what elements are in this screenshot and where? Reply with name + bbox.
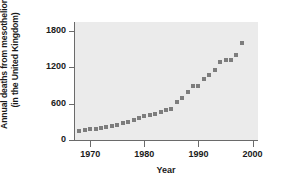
data-point	[137, 116, 141, 120]
data-point	[224, 58, 228, 62]
data-point	[180, 96, 184, 100]
data-point	[115, 123, 119, 127]
data-point	[234, 53, 238, 57]
x-tick-1990	[198, 141, 199, 147]
data-point	[148, 113, 152, 117]
chart-figure: Annual deaths from mesothelioma (in the …	[0, 0, 282, 195]
data-point	[207, 73, 211, 77]
x-tick-label-1990: 1990	[176, 149, 220, 159]
plot-area	[75, 22, 258, 140]
y-axis-title-line-1: Annual deaths from mesothelioma	[0, 0, 10, 130]
data-point	[202, 77, 206, 81]
data-point	[169, 107, 173, 111]
y-axis-title: Annual deaths from mesothelioma (in the …	[0, 0, 29, 130]
data-point	[175, 100, 179, 104]
data-point	[110, 124, 114, 128]
data-point	[240, 41, 244, 45]
data-point	[218, 60, 222, 64]
data-point	[83, 128, 87, 132]
data-point	[132, 118, 136, 122]
data-point	[77, 129, 81, 133]
data-point	[196, 84, 200, 88]
data-point	[186, 90, 190, 94]
x-tick-label-1980: 1980	[122, 149, 166, 159]
y-tick-label-1200: 1200	[26, 62, 66, 71]
y-tick-0	[69, 140, 75, 141]
data-point	[126, 120, 130, 124]
x-axis-title: Year	[74, 165, 258, 175]
y-tick-label-600: 600	[26, 99, 66, 108]
y-axis-line	[74, 22, 75, 141]
data-point	[213, 68, 217, 72]
y-tick-1800	[69, 31, 75, 32]
data-point	[191, 84, 195, 88]
data-point	[153, 112, 157, 116]
data-point	[88, 127, 92, 131]
data-point	[159, 110, 163, 114]
x-tick-label-2000: 2000	[231, 149, 275, 159]
data-point	[229, 58, 233, 62]
data-point	[104, 125, 108, 129]
y-axis-title-line-2: (in the United Kingdom)	[10, 0, 21, 130]
y-tick-1200	[69, 67, 75, 68]
y-tick-label-0: 0	[26, 135, 66, 144]
x-tick-2000	[253, 141, 254, 147]
data-point	[94, 127, 98, 131]
data-point	[121, 121, 125, 125]
x-tick-1980	[144, 141, 145, 147]
x-tick-label-1970: 1970	[68, 149, 112, 159]
x-tick-1970	[90, 141, 91, 147]
data-point	[164, 108, 168, 112]
x-axis-line	[74, 140, 258, 141]
data-point	[99, 126, 103, 130]
y-tick-label-1800: 1800	[26, 26, 66, 35]
data-point	[142, 114, 146, 118]
y-tick-600	[69, 104, 75, 105]
